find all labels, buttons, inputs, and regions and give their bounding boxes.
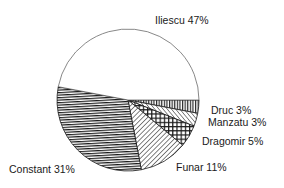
label-druc: Druc 3% — [211, 105, 251, 116]
label-constant: Constant 31% — [9, 164, 75, 175]
label-iliescu: Iliescu 47% — [155, 15, 209, 26]
label-funar: Funar 11% — [176, 162, 227, 173]
label-dragomir: Dragomir 5% — [202, 136, 263, 147]
label-manzatu: Manzatu 3% — [208, 117, 266, 128]
pie-slices — [57, 29, 199, 171]
pie-chart — [0, 0, 284, 188]
slice-iliescu — [58, 29, 199, 100]
